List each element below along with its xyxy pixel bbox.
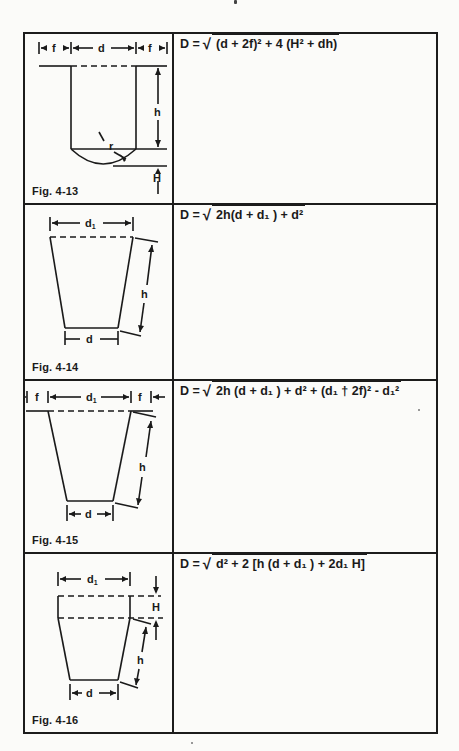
dim-d: d (86, 687, 93, 699)
figure-cell: d1 H h d Fig. 4-16 (24, 553, 173, 733)
square-root-icon: √ (203, 383, 211, 398)
figure-cell: f d1 f h d Fig. 4-15 (24, 380, 173, 553)
dim-h: h (137, 654, 144, 666)
dim-h: h (141, 288, 148, 300)
formula-radicand: d² + 2 [h (d + d₁ ) + 2d₁ H] (212, 554, 367, 571)
dim-f-left: f (52, 42, 56, 54)
dim-f-left: f (35, 391, 39, 403)
blank-diameter-formula-table: f d f h r H Fig. 4-13 D = √ (d + 2f)² + … (23, 32, 438, 734)
formula-lhs: D = (180, 557, 200, 571)
dim-f-right: f (138, 391, 142, 403)
dim-h: h (154, 106, 161, 118)
figure-cell: d1 h d Fig. 4-14 (24, 204, 173, 380)
table-row: d1 H h d Fig. 4-16 D = √ d² + 2 [h (d + … (24, 553, 437, 733)
tapered-cup-with-flange-diagram: f d1 f h d (25, 381, 172, 554)
square-root-icon: √ (203, 207, 211, 222)
dim-d1: d1 (86, 391, 97, 404)
tapered-cup-with-straight-wall-diagram: d1 H h d (25, 554, 172, 734)
scan-speck (191, 742, 193, 744)
formula: D = √ 2h (d + d₁ ) + d² + (d₁ † 2f)² - d… (180, 381, 401, 398)
page-top-mark (234, 0, 237, 4)
dim-d: d (85, 508, 92, 520)
dim-H: H (153, 172, 161, 184)
dim-f-right: f (148, 42, 152, 54)
figure-label: Fig. 4-16 (32, 714, 78, 726)
table-row: f d1 f h d Fig. 4-15 D = √ 2h (d + d₁ ) … (24, 380, 437, 553)
square-root-icon: √ (203, 556, 211, 571)
tapered-cup-diagram: d1 h d (25, 205, 172, 381)
formula-cell: D = √ 2h (d + d₁ ) + d² + (d₁ † 2f)² - d… (173, 380, 437, 553)
dim-r: r (109, 140, 114, 152)
figure-label: Fig. 4-13 (32, 185, 78, 197)
dim-H: H (152, 601, 160, 613)
formula-radicand: 2h(d + d₁ ) + d² (212, 205, 305, 222)
formula-lhs: D = (180, 208, 200, 222)
formula-cell: D = √ (d + 2f)² + 4 (H² + dh) (173, 33, 437, 204)
formula-radicand: 2h (d + d₁ ) + d² + (d₁ † 2f)² - d₁² (212, 381, 401, 398)
dim-h: h (139, 461, 146, 473)
dim-d1: d1 (85, 217, 96, 230)
figure-label: Fig. 4-15 (32, 534, 78, 546)
cup-with-flange-and-round-bottom-diagram: f d f h r H (25, 34, 172, 205)
square-root-icon: √ (203, 36, 211, 51)
formula: D = √ 2h(d + d₁ ) + d² (180, 205, 305, 222)
formula: D = √ d² + 2 [h (d + d₁ ) + 2d₁ H] (180, 554, 367, 571)
formula-radicand: (d + 2f)² + 4 (H² + dh) (212, 34, 339, 51)
figure-cell: f d f h r H Fig. 4-13 (24, 33, 173, 204)
table-row: f d f h r H Fig. 4-13 D = √ (d + 2f)² + … (24, 33, 437, 204)
figure-label: Fig. 4-14 (32, 361, 78, 373)
formula-lhs: D = (180, 384, 200, 398)
formula-cell: D = √ d² + 2 [h (d + d₁ ) + 2d₁ H] (173, 553, 437, 733)
formula: D = √ (d + 2f)² + 4 (H² + dh) (180, 34, 339, 51)
dim-d1: d1 (87, 573, 98, 586)
dim-d: d (98, 42, 105, 54)
dim-d: d (86, 333, 93, 345)
table-row: d1 h d Fig. 4-14 D = √ 2h(d + d₁ ) + d² (24, 204, 437, 380)
formula-lhs: D = (180, 37, 200, 51)
formula-cell: D = √ 2h(d + d₁ ) + d² (173, 204, 437, 380)
